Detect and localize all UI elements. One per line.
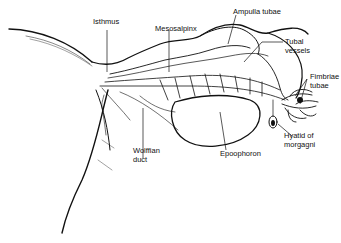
label-fimbriae-tubae: Fimbriae tubae — [310, 73, 339, 90]
body-outline-lower — [62, 90, 108, 233]
tube-upper-contour — [92, 24, 308, 64]
label-wolffian-duct: Wolffian duct — [133, 147, 160, 164]
label-isthmus: Isthmus — [93, 18, 119, 27]
label-tubal-vessels: Tubal vessels — [285, 38, 310, 55]
label-epoophoron: Epoophoron — [220, 150, 261, 159]
label-ampulla-tubae: Ampulla tubae — [233, 8, 281, 17]
label-mesosalpinx: Mesosalpinx — [155, 25, 197, 34]
mesosalpinx-vessels — [100, 74, 285, 100]
uterus-outline — [9, 29, 92, 62]
fimbriae — [282, 89, 318, 122]
ovary — [172, 96, 260, 147]
label-hyatid-of-morgagni: Hyatid of morgagni — [284, 132, 315, 149]
